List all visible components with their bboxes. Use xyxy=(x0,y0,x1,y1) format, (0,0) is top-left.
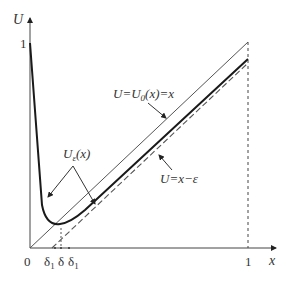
pointer-ueps-left xyxy=(48,166,73,197)
x-axis-label: x xyxy=(269,254,275,268)
delta1-left-label: δ1 xyxy=(44,255,55,268)
u-tick-1: 1 xyxy=(20,37,27,50)
x-tick-1: 1 xyxy=(245,255,252,268)
pointer-ueps-right xyxy=(73,166,95,204)
diagram-canvas xyxy=(0,0,291,281)
u-axis-label: U xyxy=(13,13,23,27)
pointer-u0-label xyxy=(148,103,166,118)
u0-line-label: U=U0(x)=x xyxy=(113,87,174,100)
origin-label: 0 xyxy=(24,255,31,268)
x-minus-eps-label: U=x−ε xyxy=(160,172,198,185)
delta-label: δ xyxy=(58,255,64,268)
pointer-x-minus-eps xyxy=(159,155,172,170)
u-epsilon-label: Uε(x) xyxy=(63,147,90,160)
delta1-right-label: δ1 xyxy=(68,255,79,268)
curve-u-epsilon xyxy=(30,43,248,224)
line-u-equals-x xyxy=(30,42,248,248)
